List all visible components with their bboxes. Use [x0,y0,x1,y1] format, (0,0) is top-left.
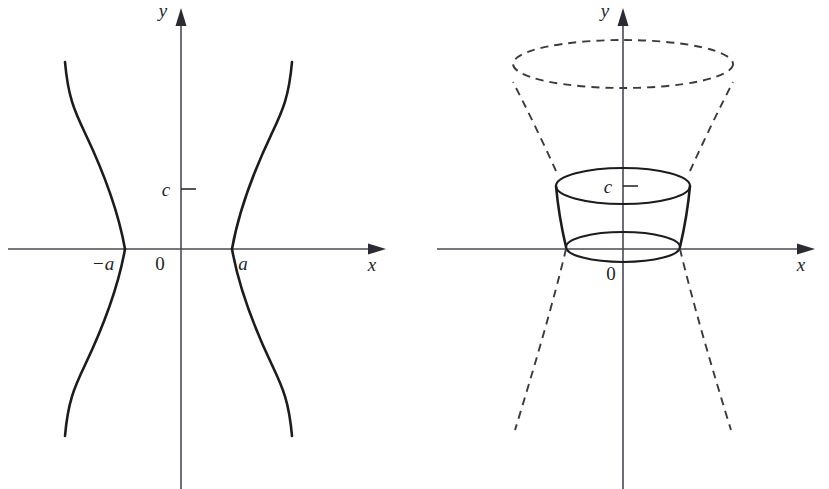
dashed-upper-right-branch [690,82,733,171]
hyperbola-left-upper [65,62,125,249]
x-axis-label: x [796,254,806,275]
x-axis-label: x [367,254,377,275]
y-axis-arrowhead [618,8,629,26]
pos-a-label: a [238,253,248,274]
y-axis-label: y [157,0,168,21]
figure-container: y x 0 −a a c [0,0,829,489]
hyperbola-left-lower [65,249,125,436]
dashed-lower-left-branch [515,249,566,430]
x-axis-arrowhead [368,244,386,255]
origin-label: 0 [606,263,616,284]
dashed-upper-left-branch [513,82,556,171]
c-level-label: c [162,179,171,200]
hyperbola-trace-svg: y x 0 −a a c [0,0,415,489]
y-axis-label: y [599,0,610,21]
neg-a-label: −a [92,253,114,274]
x-axis-arrowhead [797,244,815,255]
hyperbola-right-upper [232,62,292,249]
hyperboloid-surface-svg: y x 0 c [415,0,829,489]
c-level-label: c [604,176,613,197]
panel-hyperbola-trace: y x 0 −a a c [0,0,415,489]
panel-hyperboloid-surface: y x 0 c [415,0,829,489]
y-axis-arrowhead [176,8,187,26]
dashed-lower-right-branch [680,249,731,430]
hyperbola-right-lower [232,249,292,436]
origin-label: 0 [155,253,165,274]
